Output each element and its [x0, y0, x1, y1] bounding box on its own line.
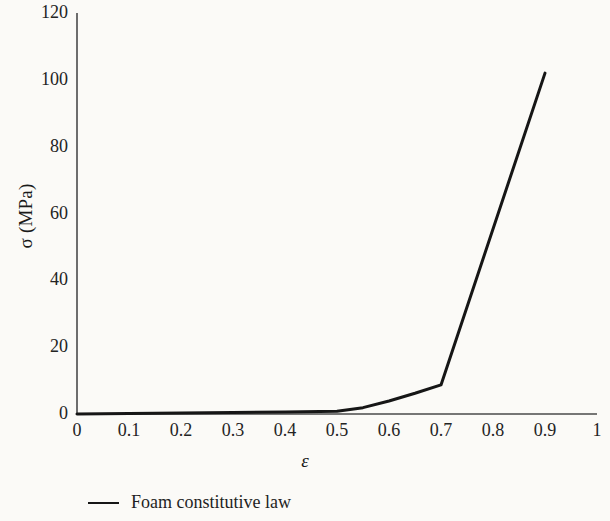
- y-tick-label: 120: [22, 2, 68, 23]
- y-tick-label: 100: [22, 69, 68, 90]
- legend: Foam constitutive law: [88, 492, 291, 513]
- axis-lines: [77, 13, 597, 414]
- legend-item-label: Foam constitutive law: [131, 492, 291, 513]
- y-tick-label: 20: [22, 336, 68, 357]
- x-tick-label: 1: [572, 420, 610, 441]
- legend-line-swatch-icon: [88, 502, 119, 504]
- x-tick-label: 0.3: [208, 420, 258, 441]
- series-line-foam-constitutive-law: [77, 73, 545, 414]
- x-tick-label: 0.4: [260, 420, 310, 441]
- x-tick-label: 0.5: [312, 420, 362, 441]
- plot-area: σ (MPa) 020406080100120 00.10.20.30.40.5…: [0, 0, 610, 480]
- x-tick-label: 0.6: [364, 420, 414, 441]
- y-tick-label: 40: [22, 269, 68, 290]
- x-axis-title-text: ε: [301, 450, 309, 471]
- x-tick-label: 0.8: [468, 420, 518, 441]
- data-series-group: [77, 73, 545, 414]
- chart-canvas: [0, 0, 610, 480]
- x-tick-label: 0.1: [104, 420, 154, 441]
- x-tick-label: 0.9: [520, 420, 570, 441]
- x-axis-title: ε: [0, 450, 610, 472]
- y-tick-label: 60: [22, 203, 68, 224]
- figure: σ (MPa) 020406080100120 00.10.20.30.40.5…: [0, 0, 610, 521]
- x-tick-label: 0: [52, 420, 102, 441]
- x-tick-label: 0.7: [416, 420, 466, 441]
- y-tick-label: 80: [22, 136, 68, 157]
- x-tick-label: 0.2: [156, 420, 206, 441]
